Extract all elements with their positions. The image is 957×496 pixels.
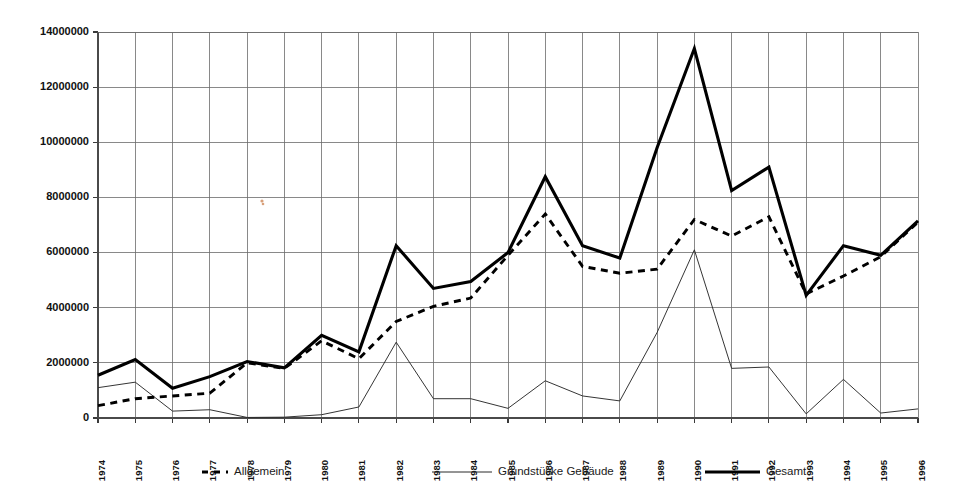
legend-label-grundstuecke-gebaeude: Grundstücke Gebäude bbox=[498, 465, 614, 477]
x-axis-tick-label: 1975 bbox=[133, 459, 144, 481]
x-axis-tick-marks bbox=[98, 418, 918, 423]
x-axis-tick-label: 1990 bbox=[692, 460, 703, 481]
x-axis-tick-label: 1996 bbox=[916, 460, 927, 481]
x-axis-tick-label: 1994 bbox=[841, 459, 852, 481]
y-axis-tick-label: 0 bbox=[83, 411, 89, 423]
scan-artifact-speck bbox=[260, 199, 263, 202]
y-axis-tick-label: 10000000 bbox=[40, 135, 89, 147]
y-axis-tick-label: 14000000 bbox=[40, 25, 89, 37]
gridlines bbox=[98, 32, 918, 418]
x-axis-tick-label: 1980 bbox=[319, 460, 330, 481]
scan-artifact-speck bbox=[262, 203, 265, 206]
legend-label-gesamt: Gesamt bbox=[766, 465, 807, 477]
y-axis-tick-label: 12000000 bbox=[40, 80, 89, 92]
x-axis-tick-label: 1984 bbox=[468, 459, 479, 481]
y-axis-tick-label: 2000000 bbox=[46, 356, 89, 368]
x-axis-tick-label: 1995 bbox=[878, 459, 889, 481]
x-axis-tick-label: 1989 bbox=[655, 460, 666, 481]
line-chart: 0200000040000006000000800000010000000120… bbox=[0, 0, 957, 496]
y-axis-tick-label: 6000000 bbox=[46, 245, 89, 257]
x-axis-tick-label: 1988 bbox=[617, 460, 628, 481]
chart-container: 0200000040000006000000800000010000000120… bbox=[0, 0, 957, 496]
x-axis-tick-label: 1982 bbox=[394, 460, 405, 481]
legend-label-allgemein: Allgemein bbox=[234, 465, 285, 477]
y-axis-tick-label: 8000000 bbox=[46, 190, 89, 202]
x-axis-tick-label: 1991 bbox=[729, 459, 740, 481]
y-axis-tick-label: 4000000 bbox=[46, 301, 89, 313]
y-axis-labels: 0200000040000006000000800000010000000120… bbox=[40, 25, 89, 423]
x-axis-tick-label: 1974 bbox=[96, 459, 107, 481]
y-axis-tick-marks bbox=[93, 32, 98, 418]
x-axis-tick-label: 1976 bbox=[170, 460, 181, 481]
x-axis-tick-label: 1983 bbox=[431, 460, 442, 481]
x-axis-tick-label: 1981 bbox=[356, 459, 367, 481]
